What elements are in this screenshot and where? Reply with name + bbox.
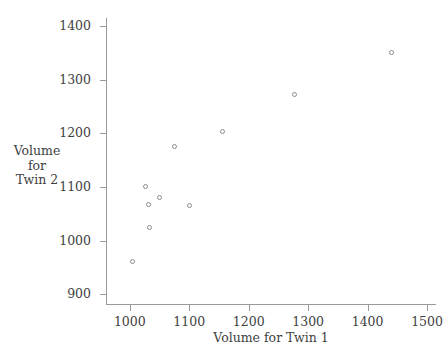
y-axis-tick-label: 1100 [59,179,91,195]
y-axis-tick: 1100 [100,187,106,188]
y-axis-tick: 900 [100,294,106,295]
y-axis-title-line-1: Volume [4,144,70,159]
y-axis-tick: 1300 [100,80,106,81]
y-axis-tick: 1000 [100,241,106,242]
x-axis-line [106,304,436,305]
x-axis-tick-label: 1100 [173,314,205,330]
y-axis-tick-label: 1200 [59,125,91,141]
x-axis-tick: 1300 [308,305,309,311]
data-point [147,225,152,230]
y-axis-tick-label: 1300 [59,72,91,88]
x-axis-tick: 1500 [427,305,428,311]
data-point [157,195,162,200]
y-axis-tick-label: 1400 [59,18,91,34]
y-axis-title-line-2: for [4,159,70,174]
x-axis-tick-label: 1500 [411,314,443,330]
data-point [130,259,135,264]
y-axis-line [106,18,107,305]
plot-area: 90010001100120013001400 1000110012001300… [106,18,436,305]
data-point [220,129,225,134]
x-axis-tick-label: 1000 [114,314,146,330]
x-axis-tick-label: 1400 [352,314,384,330]
data-point [146,202,151,207]
x-axis-tick-label: 1300 [292,314,324,330]
y-axis-tick: 1200 [100,133,106,134]
data-point [143,184,148,189]
y-axis-tick-label: 900 [67,286,91,302]
x-axis-tick: 1400 [368,305,369,311]
data-point [389,50,394,55]
x-axis-tick: 1100 [189,305,190,311]
y-axis-tick: 1400 [100,26,106,27]
x-axis-tick: 1200 [249,305,250,311]
data-point [172,144,177,149]
x-axis-tick-label: 1200 [233,314,265,330]
data-point [292,92,297,97]
scatter-plot-figure: Volume for Twin 2 Volume for Twin 1 9001… [0,0,446,353]
x-axis-tick: 1000 [130,305,131,311]
x-axis-title: Volume for Twin 1 [106,330,436,346]
y-axis-tick-label: 1000 [59,233,91,249]
data-point [187,203,192,208]
